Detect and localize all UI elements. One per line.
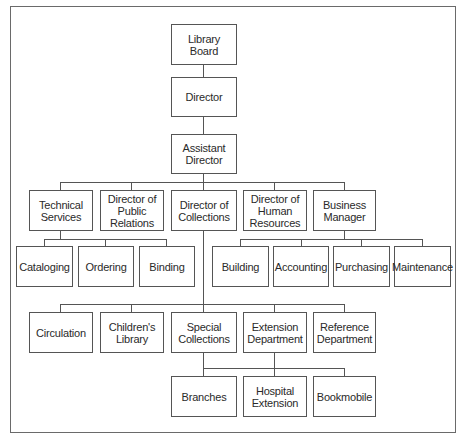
node-library-board: Library Board (171, 24, 237, 65)
connector-to-accounting (301, 239, 302, 246)
node-building: Building (212, 246, 269, 287)
node-public-relations: Director of Public Relations (100, 190, 164, 231)
connector-to-reference (344, 304, 345, 312)
connector-to-maintenance (422, 239, 423, 246)
node-childrens-library: Children's Library (100, 312, 164, 353)
node-technical-services: Technical Services (29, 190, 93, 231)
node-binding: Binding (139, 246, 195, 287)
node-cataloging: Cataloging (16, 246, 73, 287)
connector-to-bookmobile (344, 368, 345, 376)
node-bookmobile: Bookmobile (313, 376, 376, 417)
node-director: Director (171, 77, 237, 117)
connector-to-building (240, 239, 241, 246)
connector-director-assistant (203, 116, 204, 134)
connector-extension-down (274, 352, 275, 368)
node-reference-department: Reference Department (313, 312, 376, 353)
connector-to-circulation (60, 304, 61, 312)
connector-to-extension (274, 304, 275, 312)
connector-to-business (344, 182, 345, 190)
node-ordering: Ordering (78, 246, 134, 287)
node-hospital-extension: Hospital Extension (243, 376, 307, 417)
connector-to-ordering (105, 239, 106, 246)
connector-technical-down (60, 230, 61, 239)
node-special-collections: Special Collections (171, 312, 237, 353)
connector-to-cataloging (44, 239, 45, 246)
node-extension-department: Extension Department (243, 312, 307, 353)
node-human-resources: Director of Human Resources (243, 190, 307, 231)
connector-to-branches (203, 368, 204, 376)
node-branches: Branches (171, 376, 237, 417)
connector-to-binding (166, 239, 167, 246)
connector-to-purchasing (361, 239, 362, 246)
connector-to-technical (60, 182, 61, 190)
connector-to-human-resources (274, 182, 275, 190)
connector-level4-bar (60, 182, 345, 183)
node-business-manager: Business Manager (313, 190, 376, 231)
node-maintenance: Maintenance (394, 246, 451, 287)
connector-to-public-relations (131, 182, 132, 190)
connector-board-director (203, 64, 204, 77)
node-accounting: Accounting (273, 246, 329, 287)
connector-to-childrens (131, 304, 132, 312)
connector-collections-bar (60, 304, 345, 305)
connector-to-hospital (274, 368, 275, 376)
node-collections: Director of Collections (171, 190, 237, 231)
node-purchasing: Purchasing (333, 246, 390, 287)
connector-business-down (344, 230, 345, 239)
connector-business-bar (240, 239, 423, 240)
node-assistant-director: Assistant Director (171, 134, 237, 174)
node-circulation: Circulation (29, 312, 93, 353)
